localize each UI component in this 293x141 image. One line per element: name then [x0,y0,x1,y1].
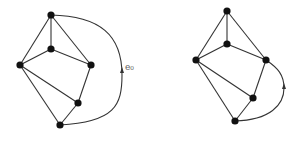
edge-c-f [196,60,235,121]
graph-svg: e₀ [0,0,293,141]
edge-e-f [235,98,253,121]
edge-e-f [60,103,78,125]
edge-a-c [196,11,227,60]
node-b [47,45,54,52]
right-graph [192,7,286,124]
arrow-up-icon [120,67,124,73]
edge-d-e [78,65,91,103]
edge-label-e0: e₀ [125,62,134,72]
node-d [87,61,94,68]
node-b [223,40,230,47]
edge-c-f [20,65,60,125]
edge-c-e [196,60,253,98]
curved-edge [51,15,122,125]
diagram-canvas: e₀ [0,0,293,141]
node-a [47,11,54,18]
node-f [231,117,238,124]
node-f [56,121,63,128]
node-c [192,56,199,63]
node-e [74,99,81,106]
arrow-up-icon [282,83,286,89]
left-graph [16,11,124,128]
node-c [16,61,23,68]
node-a [223,7,230,14]
node-e [249,94,256,101]
edge-a-d [227,11,266,60]
edge-d-e [253,60,266,98]
node-d [262,56,269,63]
edge-c-e [20,65,78,103]
